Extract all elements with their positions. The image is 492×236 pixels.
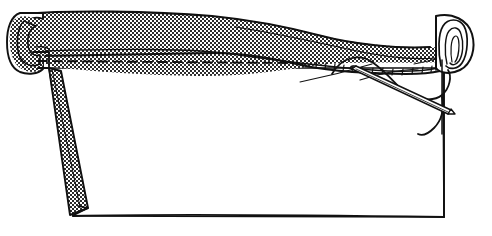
fabric-panel — [49, 68, 444, 217]
sewing-illustration: Rolled hem hand-sewing diagram Line-art … — [0, 0, 492, 236]
fabric-panel-outline — [49, 68, 444, 217]
figure-canvas — [0, 0, 492, 236]
